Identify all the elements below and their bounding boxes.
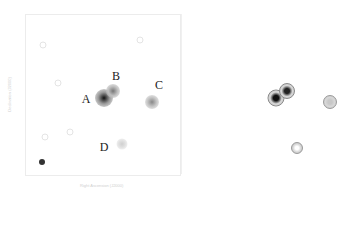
faint-source — [55, 80, 62, 87]
beam-marker — [39, 159, 45, 165]
model-source-d — [291, 142, 303, 154]
source-label-a: A — [82, 92, 91, 107]
x-axis-label: Right Ascension (J2000) — [80, 183, 123, 188]
source-d — [117, 139, 128, 150]
faint-source — [40, 42, 47, 49]
faint-source — [67, 129, 74, 136]
source-label-c: C — [155, 78, 163, 93]
faint-source — [137, 37, 144, 44]
source-b — [106, 84, 120, 98]
source-label-d: D — [100, 140, 109, 155]
y-axis-label: Declination (J2000) — [7, 77, 12, 111]
faint-source — [42, 134, 49, 141]
source-label-b: B — [112, 69, 120, 84]
model-source-c — [323, 95, 337, 109]
source-c — [145, 95, 159, 109]
model-source-b — [279, 83, 295, 99]
